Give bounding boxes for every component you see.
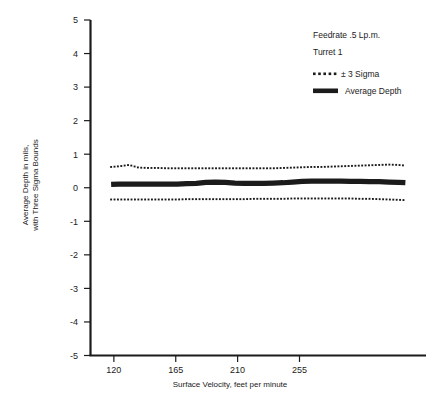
series-dot — [378, 164, 380, 166]
series-dot — [369, 198, 371, 200]
series-dot — [175, 199, 177, 201]
series-dot — [171, 199, 173, 201]
series-dot — [307, 166, 309, 168]
series-dot — [317, 166, 319, 168]
series-dot — [293, 167, 295, 169]
series-dot — [392, 164, 394, 166]
series-dot — [320, 166, 322, 168]
series-dot — [171, 167, 173, 169]
series-dot — [314, 166, 316, 168]
series-dot — [157, 167, 159, 169]
series-dot — [375, 198, 377, 200]
series-dot — [267, 198, 269, 200]
series-dot — [219, 198, 221, 200]
series-dot — [256, 167, 258, 169]
series-dot — [382, 198, 384, 200]
series-dot — [147, 167, 149, 169]
series-dot — [270, 198, 272, 200]
series-dot — [182, 198, 184, 200]
series-dot — [348, 165, 350, 167]
series-dot — [151, 199, 153, 201]
series-dot — [178, 167, 180, 169]
series-dot — [304, 198, 306, 200]
series-dot — [120, 199, 122, 201]
series-dot — [141, 199, 143, 201]
series-dot — [246, 167, 248, 169]
series-dot — [233, 198, 235, 200]
series-dot — [246, 198, 248, 200]
series-dot — [355, 198, 357, 200]
series-dot — [140, 167, 142, 169]
series-dot — [385, 164, 387, 166]
series-dot — [284, 198, 286, 200]
series-dot — [338, 198, 340, 200]
series-dot — [311, 198, 313, 200]
series-dot — [205, 167, 207, 169]
series-dot — [225, 167, 227, 169]
series-dot — [202, 198, 204, 200]
series-dot — [127, 164, 129, 166]
series-dot — [389, 199, 391, 201]
series-dot — [249, 167, 251, 169]
series-dot — [167, 167, 169, 169]
x-tick-label: 120 — [106, 365, 121, 375]
series-dot — [208, 167, 210, 169]
legend-note-turret: Turret 1 — [313, 47, 343, 57]
y-tick-label: -2 — [70, 250, 78, 260]
series-dot — [280, 198, 282, 200]
series-dot — [124, 199, 126, 201]
series-dot — [294, 198, 296, 200]
series-dot — [382, 164, 384, 166]
series-dot — [239, 167, 241, 169]
y-tick-label: 5 — [73, 15, 78, 25]
y-axis-title-line1: Average Depth in mils, — [21, 145, 30, 225]
series-dot — [120, 165, 122, 167]
series-dot — [348, 198, 350, 200]
series-dot — [344, 165, 346, 167]
series-dot — [185, 198, 187, 200]
series-dot — [222, 167, 224, 169]
series-dot — [259, 167, 261, 169]
series-dot — [236, 198, 238, 200]
series-dot — [161, 167, 163, 169]
series-dot — [290, 198, 292, 200]
series-dot — [243, 198, 245, 200]
y-tick-label: 3 — [73, 82, 78, 92]
series-dot — [354, 165, 356, 167]
series-dot — [239, 198, 241, 200]
series-dot — [181, 167, 183, 169]
series-dot — [198, 167, 200, 169]
series-dot — [191, 167, 193, 169]
series-dot — [396, 199, 398, 201]
series-dot — [399, 164, 401, 166]
series-dot — [114, 166, 116, 168]
series-dot — [341, 198, 343, 200]
series-dot — [130, 165, 132, 167]
series-dot — [395, 164, 397, 166]
series-dot — [362, 198, 364, 200]
series-dot — [273, 198, 275, 200]
series-dot — [263, 198, 265, 200]
y-axis-title-line2: with Three Sigma Bounds — [31, 139, 40, 231]
x-tick-label: 165 — [168, 365, 183, 375]
series-average-depth — [111, 181, 405, 184]
series-dot — [337, 165, 339, 167]
series-dot — [168, 199, 170, 201]
series-dot — [226, 198, 228, 200]
series-dot — [300, 166, 302, 168]
series-dot — [218, 167, 220, 169]
series-dot — [287, 198, 289, 200]
series-dot — [331, 198, 333, 200]
series-dot — [161, 199, 163, 201]
series-dot — [235, 167, 237, 169]
series-dot — [148, 199, 150, 201]
y-tick-label: 0 — [73, 183, 78, 193]
series-dot — [273, 167, 275, 169]
series-dot — [297, 198, 299, 200]
series-dot — [371, 164, 373, 166]
series-dot — [375, 164, 377, 166]
series-dot — [358, 165, 360, 167]
series-dot — [192, 198, 194, 200]
chart-svg: 543210-1-2-3-4-5 120165210255 Average De… — [0, 0, 431, 406]
series-dot — [334, 166, 336, 168]
